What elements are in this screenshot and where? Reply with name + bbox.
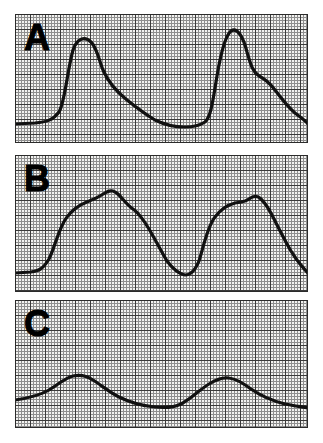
- panel-b: [15, 155, 308, 292]
- panel-label-b: B: [24, 161, 50, 197]
- graph-paper-grid-b: [15, 155, 308, 292]
- graph-paper-grid-c: [15, 300, 308, 428]
- panel-a: [15, 14, 308, 143]
- panel-label-a: A: [24, 20, 50, 56]
- graph-paper-grid-a: [15, 14, 308, 143]
- panel-c: [15, 300, 308, 428]
- panel-label-c: C: [24, 306, 50, 342]
- waveform-figure: A B C: [0, 0, 323, 443]
